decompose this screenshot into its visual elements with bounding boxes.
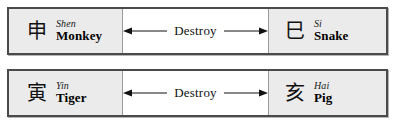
left-arrow-icon xyxy=(123,26,167,36)
relation-cell-2: Destroy xyxy=(122,71,268,115)
figure-container: 申 Shen Monkey Destroy 巳 S xyxy=(0,0,395,122)
right-arrow-icon xyxy=(224,88,268,98)
relation-table-row-2: 寅 Yin Tiger Destroy 亥 Hai xyxy=(7,69,388,117)
branch-animal-label: Tiger xyxy=(56,91,87,105)
relation-label-destroy: Destroy xyxy=(174,23,217,39)
branch-cell-left-2: 寅 Yin Tiger xyxy=(9,71,122,115)
branch-glyph-yin: 寅 xyxy=(27,83,47,103)
relation-label-destroy: Destroy xyxy=(174,85,217,101)
branch-cell-right-2: 亥 Hai Pig xyxy=(268,71,386,115)
branch-glyph-si: 巳 xyxy=(285,21,305,41)
left-arrow-icon xyxy=(123,88,167,98)
relation-cell-1: Destroy xyxy=(122,9,268,53)
branch-animal-label: Snake xyxy=(314,29,348,43)
branch-glyph-hai: 亥 xyxy=(285,83,305,103)
branch-glyph-shen: 申 xyxy=(27,21,47,41)
relation-table-row-1: 申 Shen Monkey Destroy 巳 S xyxy=(7,7,388,55)
branch-names-2-left: Yin Tiger xyxy=(56,81,87,106)
branch-names-1-left: Shen Monkey xyxy=(56,19,102,44)
branch-names-1-right: Si Snake xyxy=(314,19,348,44)
branch-animal-label: Pig xyxy=(314,91,332,105)
branch-names-2-right: Hai Pig xyxy=(314,81,332,106)
branch-cell-left-1: 申 Shen Monkey xyxy=(9,9,122,53)
relation-inner-2: Destroy xyxy=(123,85,268,101)
branch-cell-right-1: 巳 Si Snake xyxy=(268,9,386,53)
right-arrow-icon xyxy=(224,26,268,36)
branch-animal-label: Monkey xyxy=(56,29,102,43)
relation-inner-1: Destroy xyxy=(123,23,268,39)
